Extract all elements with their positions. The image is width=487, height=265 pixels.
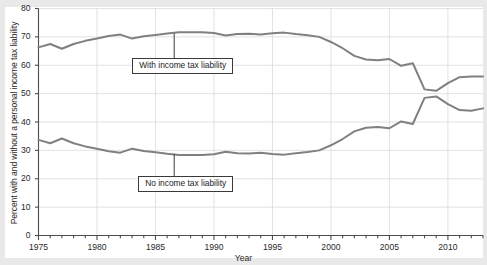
x-tick-label: 1980 [77, 242, 117, 252]
y-axis-title: Percent with and without a personal inco… [9, 5, 19, 241]
chart-figure: 01020304050607080 1975198019851990199520… [0, 0, 487, 265]
x-axis-title: Year [0, 253, 487, 263]
x-tick-label: 1990 [194, 242, 234, 252]
gridlines [39, 9, 484, 236]
annotation-with-income-tax-liability: With income tax liability [132, 58, 233, 74]
x-tick-label: 1995 [252, 242, 292, 252]
series-line-1 [39, 32, 484, 90]
line-chart-plot [0, 0, 487, 265]
x-tick-label: 2005 [369, 242, 409, 252]
x-tick-label: 2000 [311, 242, 351, 252]
series-line-2 [39, 96, 484, 154]
x-tick-label: 1975 [19, 242, 59, 252]
x-tick-label: 2010 [428, 242, 468, 252]
x-tick-label: 1985 [135, 242, 175, 252]
annotation-no-income-tax-liability: No income tax liability [138, 176, 233, 192]
axis-ticks [35, 9, 483, 241]
